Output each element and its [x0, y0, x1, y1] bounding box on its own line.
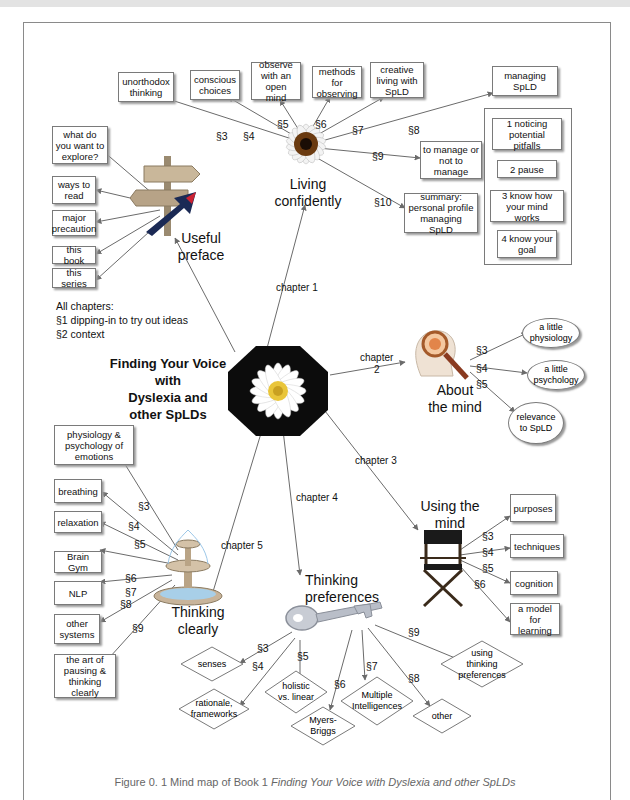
box-ways-to-read: ways to read — [52, 176, 96, 204]
box-summary-profile: summary: personal profile managing SpLD — [404, 193, 478, 233]
section-num: §4 — [252, 660, 264, 672]
section-num: §9 — [408, 626, 420, 638]
chapter1-title: Living confidently — [268, 176, 348, 210]
diamond-label: Multiple Intelligences — [340, 676, 414, 726]
figure-caption: Figure 0. 1 Mind map of Book 1 Finding Y… — [0, 776, 630, 788]
box-this-series: this series — [52, 268, 96, 288]
chapter3-title: Using the mind — [410, 498, 490, 532]
title-line: Thinking — [160, 604, 236, 621]
section-num: §9 — [132, 622, 144, 634]
center-title: Finding Your Voice with Dyslexia and oth… — [103, 355, 233, 423]
diamond-label: other — [412, 698, 472, 734]
title-line: with — [103, 372, 233, 389]
section-num: §6 — [474, 578, 486, 590]
oval-relevance-spld: relevance to SpLD — [508, 402, 564, 444]
key-icon — [284, 590, 384, 640]
step-noticing-pitfalls: 1 noticing potential pitfalls — [492, 118, 562, 150]
section-num: §8 — [408, 124, 420, 136]
section-num: §7 — [352, 124, 364, 136]
section-num: §4 — [476, 362, 488, 374]
section-num: §7 — [125, 586, 137, 598]
diamond-label: rationale, frameworks — [178, 688, 250, 730]
note-line: All chapters: — [56, 299, 188, 313]
section-num: §3 — [476, 344, 488, 356]
section-num: §4 — [482, 546, 494, 558]
link-label-chapter5: chapter 5 — [221, 540, 263, 551]
section-num: §10 — [374, 196, 392, 208]
note-line: §1 dipping-in to try out ideas — [56, 313, 188, 327]
diamond-senses: senses — [180, 646, 244, 682]
section-num: §3 — [257, 642, 269, 654]
section-num: §8 — [120, 598, 132, 610]
link-label-chapter4: chapter 4 — [296, 492, 338, 503]
diamond-rationale: rationale, frameworks — [178, 688, 250, 730]
daisy-octagon-icon — [228, 346, 328, 436]
box-conscious-choices: conscious choices — [190, 70, 240, 100]
box-unorthodox-thinking: unorthodox thinking — [118, 72, 174, 102]
box-what-to-explore: what do you want to explore? — [52, 126, 108, 164]
title-line: preface — [166, 247, 236, 264]
oval-little-psychology: a little psychology — [527, 360, 585, 390]
section-num: §3 — [482, 530, 494, 542]
section-num: §5 — [482, 562, 494, 574]
box-breathing: breathing — [54, 479, 102, 503]
box-cognition: cognition — [510, 571, 558, 595]
box-creative-living: creative living with SpLD — [370, 62, 424, 98]
section-num: §9 — [372, 150, 384, 162]
section-num: §6 — [125, 572, 137, 584]
box-techniques: techniques — [510, 534, 564, 558]
diamond-using-preferences: using thinking preferences — [440, 640, 524, 688]
section-num: §3 — [216, 130, 228, 142]
section-num: §3 — [138, 500, 150, 512]
note-line: §2 context — [56, 327, 188, 341]
box-to-manage: to manage or not to manage — [420, 141, 482, 179]
title-line: Using the — [410, 498, 490, 515]
section-num: §5 — [134, 538, 146, 550]
title-line: clearly — [160, 621, 236, 638]
title-line: Dyslexia and — [103, 389, 233, 406]
caption-prefix: Figure 0. 1 Mind map of Book 1 — [114, 776, 271, 788]
section-num: §8 — [408, 672, 420, 684]
section-num: §5 — [297, 650, 309, 662]
step-pause: 2 pause — [497, 160, 557, 178]
box-this-book: this book — [52, 246, 96, 264]
head-magnifier-icon — [407, 318, 475, 382]
preface-title: Useful preface — [166, 230, 236, 264]
diamond-multiple-intelligences: Multiple Intelligences — [340, 676, 414, 726]
caption-title: Finding Your Voice with Dyslexia and oth… — [271, 776, 516, 788]
chapter5-title: Thinking clearly — [160, 604, 236, 638]
section-num: §5 — [277, 118, 289, 130]
box-purposes: purposes — [510, 494, 556, 522]
diamond-other: other — [412, 698, 472, 734]
link-label-chapter2: chapter 2 — [360, 352, 393, 376]
section-num: §6 — [315, 118, 327, 130]
section-num: §7 — [366, 660, 378, 672]
section-num: §6 — [334, 678, 346, 690]
box-observe-open-mind: observe with an open mind — [251, 62, 301, 100]
title-line: Useful — [166, 230, 236, 247]
signpost-icon — [130, 152, 206, 236]
title-line: the mind — [416, 399, 494, 416]
title-line: Thinking — [305, 572, 415, 589]
title-line: other SpLDs — [103, 406, 233, 423]
title-line: Living — [268, 176, 348, 193]
section-num: §5 — [476, 378, 488, 390]
box-managing-spld: managing SpLD — [492, 66, 558, 96]
title-line: Finding Your Voice — [103, 355, 233, 372]
diamond-label: using thinking preferences — [440, 640, 524, 688]
box-other-systems: other systems — [54, 614, 100, 644]
box-relaxation: relaxation — [54, 511, 102, 533]
box-art-of-pausing: the art of pausing & thinking clearly — [54, 654, 116, 698]
label-line: 2 — [360, 364, 393, 376]
all-chapters-note: All chapters: §1 dipping-in to try out i… — [56, 299, 188, 341]
oval-little-physiology: a little physiology — [522, 318, 580, 348]
link-label-chapter1: chapter 1 — [276, 282, 318, 293]
link-label-chapter3: chapter 3 — [355, 455, 397, 466]
section-num: §4 — [128, 520, 140, 532]
directors-chair-icon — [418, 528, 470, 608]
box-brain-gym: Brain Gym — [54, 551, 102, 573]
box-nlp: NLP — [54, 581, 102, 605]
step-know-goal: 4 know your goal — [497, 230, 557, 258]
diamond-label: senses — [180, 646, 244, 682]
label-line: chapter — [360, 352, 393, 364]
